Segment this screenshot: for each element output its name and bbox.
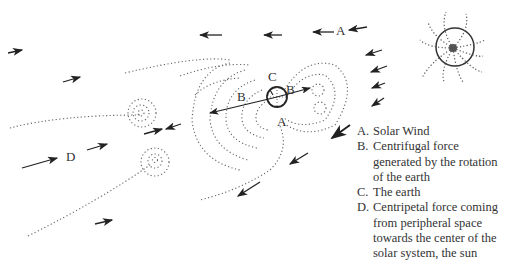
centrifugal-arrow [210, 88, 310, 113]
field-lines [10, 59, 348, 236]
label-d: D [66, 150, 75, 163]
centripetal-arrows [8, 50, 181, 224]
sun-icon [420, 12, 485, 82]
label-c: C [268, 70, 277, 83]
legend-item-d: D. Centripetal force coming from periphe… [357, 200, 507, 261]
legend-item-a: A. Solar Wind [357, 124, 507, 139]
legend: A. Solar Wind B. Centrifugal force gener… [357, 124, 507, 262]
label-b-right: B [286, 83, 295, 96]
legend-item-b: B. Centrifugal force generated by the ro… [357, 139, 507, 185]
label-a-top: A [336, 24, 345, 37]
legend-item-c: C. The earth [357, 185, 507, 200]
label-a-bottom: A [277, 115, 286, 128]
label-b-left: B [237, 90, 246, 103]
